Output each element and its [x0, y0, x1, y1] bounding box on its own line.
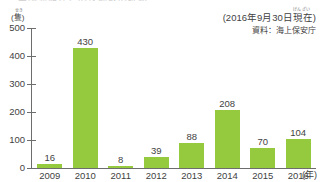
y-tick-mark [27, 112, 31, 113]
x-tick-label: 2013 [181, 170, 202, 181]
bar-slot: 104 [286, 28, 311, 168]
y-tick-label: 100 [9, 135, 25, 145]
x-tick-label: 2009 [39, 170, 60, 181]
y-tick-label: 0 [20, 163, 25, 173]
bar-slot: 88 [179, 28, 204, 168]
y-tick-mark [27, 140, 31, 141]
y-tick-mark [27, 56, 31, 57]
bar [215, 110, 240, 168]
y-tick-label: 200 [9, 107, 25, 117]
x-tick-label: 2011 [111, 170, 131, 181]
y-tick-label: 500 [9, 23, 25, 33]
y-tick-mark [27, 168, 31, 169]
x-tick-label: 2010 [75, 170, 96, 181]
bar-value-label: 39 [151, 145, 162, 156]
y-tick-label: 300 [9, 79, 25, 89]
bar-slot: 8 [108, 28, 133, 168]
as-of-date-text: (2016年9月30日現在) [223, 12, 316, 23]
x-tick-label: 2012 [146, 170, 167, 181]
y-tick-mark [27, 28, 31, 29]
y-axis-unit: せき (隻) [11, 9, 24, 22]
bar-slot: 16 [37, 28, 62, 168]
bar [250, 148, 275, 168]
bar-value-label: 16 [44, 152, 55, 163]
bar-slot: 70 [250, 28, 275, 168]
bar [108, 166, 133, 168]
as-of-date-ruby: げんざい [293, 7, 310, 12]
bar-value-label: 88 [186, 131, 197, 142]
bar-value-label: 208 [219, 98, 235, 109]
x-axis-line [31, 168, 316, 169]
as-of-date: げんざい (2016年9月30日現在) [223, 12, 316, 24]
bar [144, 157, 169, 168]
bar-slot: 430 [73, 28, 98, 168]
y-tick-mark-inner [32, 168, 36, 169]
bar [37, 164, 62, 168]
x-tick-label: 2016 [288, 170, 309, 181]
y-tick-label: 400 [9, 51, 25, 61]
bar [179, 143, 204, 168]
bar [286, 139, 311, 168]
y-axis-unit-text: (隻) [11, 13, 24, 22]
y-tick-mark [27, 84, 31, 85]
bar-slot: 39 [144, 28, 169, 168]
bar-value-label: 104 [290, 127, 306, 138]
bar-chart-figure: 中国漁船などの送検数の推移 せき (隻) げんざい (2016年9月30日現在)… [0, 0, 322, 182]
x-tick-label: 2014 [217, 170, 238, 181]
bar [73, 48, 98, 168]
bar-value-label: 8 [118, 154, 123, 165]
cut-off-title: 中国漁船などの送検数の推移 [18, 0, 258, 1]
x-axis-labels: (年) 20092010201120122013201420152016 [31, 170, 316, 182]
bar-value-label: 430 [77, 36, 93, 47]
plot-area: 0100200300400500 164308398820870104 [31, 28, 316, 168]
x-tick-label: 2015 [252, 170, 273, 181]
bar-slot: 208 [215, 28, 240, 168]
bar-value-label: 70 [257, 136, 268, 147]
bar-series: 164308398820870104 [32, 28, 316, 168]
